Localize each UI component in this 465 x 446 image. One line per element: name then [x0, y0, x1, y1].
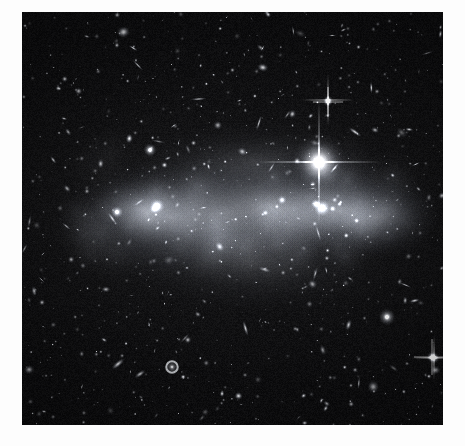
figure-caption: [22, 428, 443, 442]
figure-page: [0, 0, 465, 446]
galaxy-cluster-image-frame: [22, 12, 443, 425]
galaxy-cluster-deep-field-image: [22, 12, 443, 425]
